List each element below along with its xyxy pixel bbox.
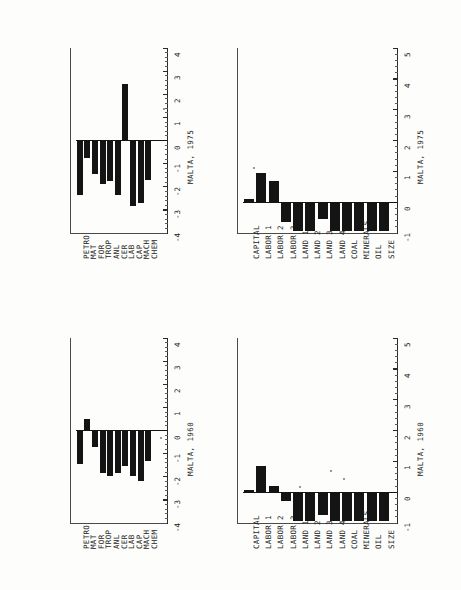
axis-minor-tick xyxy=(395,344,398,345)
axis-tick-label: 1 xyxy=(403,466,412,471)
axis-tick xyxy=(393,430,398,431)
axis-minor-tick xyxy=(395,498,398,499)
axis-minor-tick xyxy=(395,405,398,406)
scan-artifact xyxy=(160,437,162,439)
category-label: SIZE xyxy=(387,530,396,549)
axis-minor-tick xyxy=(395,418,398,419)
axis-minor-tick xyxy=(395,350,398,351)
axis-minor-tick xyxy=(395,504,398,505)
axis-minor-tick xyxy=(395,479,398,480)
chart-axis-title: MALTA, 1960 xyxy=(416,422,425,476)
axis-minor-tick xyxy=(395,381,398,382)
axis-tick xyxy=(393,368,398,369)
axis-tick-label: -1 xyxy=(403,523,412,532)
axis-minor-tick xyxy=(395,375,398,376)
axis-minor-tick xyxy=(395,516,398,517)
bar xyxy=(293,492,303,521)
scan-artifact xyxy=(343,478,345,480)
category-label: LAND 3 xyxy=(325,520,334,549)
axis-minor-tick xyxy=(395,356,398,357)
axis-minor-tick xyxy=(395,449,398,450)
category-label: LAND 4 xyxy=(338,520,347,549)
axis-minor-tick xyxy=(395,424,398,425)
axis-minor-tick xyxy=(395,467,398,468)
bar xyxy=(269,486,279,492)
axis-tick xyxy=(393,399,398,400)
axis-tick xyxy=(393,338,398,339)
chart-panel-endowment-1960: -1012345CAPITALLABOR 1LABOR 2LABOR 3LAND… xyxy=(0,0,461,590)
bar xyxy=(342,492,352,521)
category-label: OIL xyxy=(374,535,383,549)
bar xyxy=(244,490,254,492)
scan-artifact xyxy=(299,486,301,488)
axis-tick-label: 2 xyxy=(403,435,412,440)
axis-minor-tick xyxy=(395,387,398,388)
bar xyxy=(318,492,328,515)
figure-page: -4-3-2-101234PETROMATFORTROPANLCERLABCAP… xyxy=(0,0,461,590)
axis-minor-tick xyxy=(395,362,398,363)
scan-artifact xyxy=(330,470,332,472)
bar xyxy=(367,492,377,521)
scan-artifact xyxy=(163,108,165,110)
axis-tick-label: 4 xyxy=(403,373,412,378)
category-label: LAND 2 xyxy=(313,520,322,549)
plot-frame-edge xyxy=(237,338,238,523)
axis-minor-tick xyxy=(395,393,398,394)
axis-tick-label: 3 xyxy=(403,404,412,409)
axis-tick-label: 0 xyxy=(403,497,412,502)
axis-minor-tick xyxy=(395,510,398,511)
bar xyxy=(281,492,291,501)
axis-minor-tick xyxy=(395,436,398,437)
axis-minor-tick xyxy=(395,486,398,487)
category-label: COAL xyxy=(350,530,359,549)
scan-artifact xyxy=(253,167,255,169)
category-label: LABOR 1 xyxy=(264,515,273,549)
axis-minor-tick xyxy=(395,442,398,443)
axis-minor-tick xyxy=(395,455,398,456)
category-label: CAPITAL xyxy=(252,515,261,549)
axis-minor-tick xyxy=(395,473,398,474)
bar xyxy=(330,492,340,521)
bar xyxy=(256,466,266,492)
axis-tick xyxy=(393,461,398,462)
bar xyxy=(305,492,315,521)
axis-tick-label: 5 xyxy=(403,342,412,347)
category-label: LAND 1 xyxy=(301,520,310,549)
bar xyxy=(379,492,389,521)
axis-minor-tick xyxy=(395,412,398,413)
category-label: LABOR 2 xyxy=(276,515,285,549)
